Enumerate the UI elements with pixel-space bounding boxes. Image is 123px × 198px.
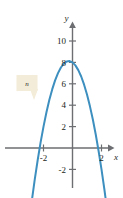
x-tick-label-neg2: -2 (40, 153, 48, 163)
y-tick-label-4: 4 (62, 100, 67, 110)
y-axis-arrowhead (69, 22, 76, 29)
y-tick-label-neg2: -2 (59, 165, 67, 175)
callout-label: n (25, 80, 29, 88)
x-axis-arrowhead (108, 145, 115, 152)
parabola-curve (26, 61, 113, 198)
y-tick-label-10: 10 (57, 36, 67, 46)
x-tick-label-2: 2 (99, 153, 104, 163)
x-axis-label: x (113, 152, 118, 162)
y-axis-label: y (64, 13, 69, 23)
y-tick-label-2: 2 (62, 122, 67, 132)
y-tick-label-6: 6 (62, 79, 67, 89)
figure-container: 10 8 6 4 2 -2 -2 2 y x n (0, 0, 123, 198)
y-tick-label-8: 8 (62, 58, 67, 68)
parabola-chart: 10 8 6 4 2 -2 -2 2 y x n (0, 0, 123, 198)
